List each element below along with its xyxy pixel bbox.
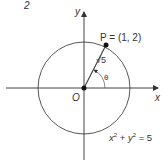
origin-label: O (72, 92, 80, 103)
point-p (104, 43, 109, 48)
x-axis-label: x (154, 92, 161, 103)
figure-number: 2 (23, 0, 30, 11)
radius-segment (84, 45, 106, 88)
origin-point (82, 86, 87, 91)
circle-equation: x2 + y2 = 5 (108, 132, 152, 143)
point-label: P = (1, 2) (100, 32, 141, 43)
angle-label: θ (104, 73, 109, 82)
segment-label: √5 (96, 55, 106, 65)
y-axis-label: y (74, 6, 81, 17)
unit-circle-diagram: 2 x y O θ P = (1, 2) √5 x2 + y2 = 5 (0, 0, 164, 162)
